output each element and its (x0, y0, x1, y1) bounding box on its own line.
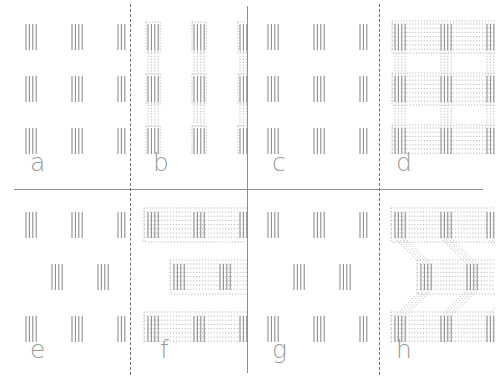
texture-element (118, 316, 126, 342)
texture-element (314, 76, 324, 102)
texture-element (194, 128, 204, 154)
texture-element (194, 24, 204, 50)
texture-element (26, 24, 36, 50)
panel-c-plot (256, 10, 368, 155)
texture-element (314, 316, 324, 342)
texture-element (360, 212, 368, 238)
panel-g-plot (256, 198, 368, 343)
texture-element (194, 76, 204, 102)
texture-element (314, 128, 324, 154)
panel-label-d: d (396, 150, 412, 175)
texture-element (487, 316, 495, 342)
texture-element (268, 212, 278, 238)
texture-element (72, 24, 82, 50)
texture-element (72, 212, 82, 238)
panel-d-plot (383, 10, 495, 155)
panel-e-plot (14, 198, 126, 343)
panel-label-b: b (153, 150, 169, 175)
panel-label-g: g (272, 337, 287, 362)
texture-element (240, 24, 248, 50)
texture-element (360, 24, 368, 50)
texture-element (98, 264, 108, 290)
panel-b-plot (136, 10, 248, 155)
divider-horizontal-main (14, 189, 483, 190)
panel-f (136, 198, 248, 343)
texture-element (118, 212, 126, 238)
texture-element (487, 212, 495, 238)
figure-canvas: a b c d e f g h (0, 0, 497, 379)
divider-vertical-dashed-right (379, 4, 380, 375)
texture-element (340, 264, 350, 290)
texture-element (314, 24, 324, 50)
texture-element (240, 316, 248, 342)
bridge-box (391, 208, 495, 242)
panel-g (256, 198, 368, 343)
texture-element (294, 264, 304, 290)
texture-element (118, 128, 126, 154)
texture-element (441, 24, 451, 50)
panel-label-h: h (396, 337, 412, 362)
panel-a (14, 10, 126, 155)
bridge-box (144, 208, 248, 242)
texture-element (52, 264, 62, 290)
texture-element (72, 316, 82, 342)
texture-element (268, 76, 278, 102)
panel-d (383, 10, 495, 155)
panel-a-plot (14, 10, 126, 155)
texture-element (441, 76, 451, 102)
texture-element (148, 24, 158, 50)
panel-e (14, 198, 126, 343)
texture-element (314, 212, 324, 238)
texture-element (360, 128, 368, 154)
panel-f-plot (136, 198, 248, 343)
texture-element (118, 76, 126, 102)
texture-element (148, 76, 158, 102)
panel-b (136, 10, 248, 155)
texture-element (360, 76, 368, 102)
divider-vertical-dashed-left (130, 4, 131, 375)
texture-element (72, 128, 82, 154)
texture-element (240, 76, 248, 102)
texture-element (72, 76, 82, 102)
panel-label-c: c (272, 150, 286, 175)
texture-element (268, 24, 278, 50)
panel-label-a: a (30, 150, 45, 175)
texture-element (26, 212, 36, 238)
texture-element (118, 24, 126, 50)
texture-element (441, 128, 451, 154)
texture-element (360, 316, 368, 342)
texture-element (26, 76, 36, 102)
texture-element (240, 128, 248, 154)
panel-c (256, 10, 368, 155)
panel-label-f: f (160, 337, 169, 362)
panel-label-e: e (30, 337, 45, 362)
texture-element (240, 212, 248, 238)
panel-h (383, 198, 495, 343)
panel-h-plot (383, 198, 495, 343)
